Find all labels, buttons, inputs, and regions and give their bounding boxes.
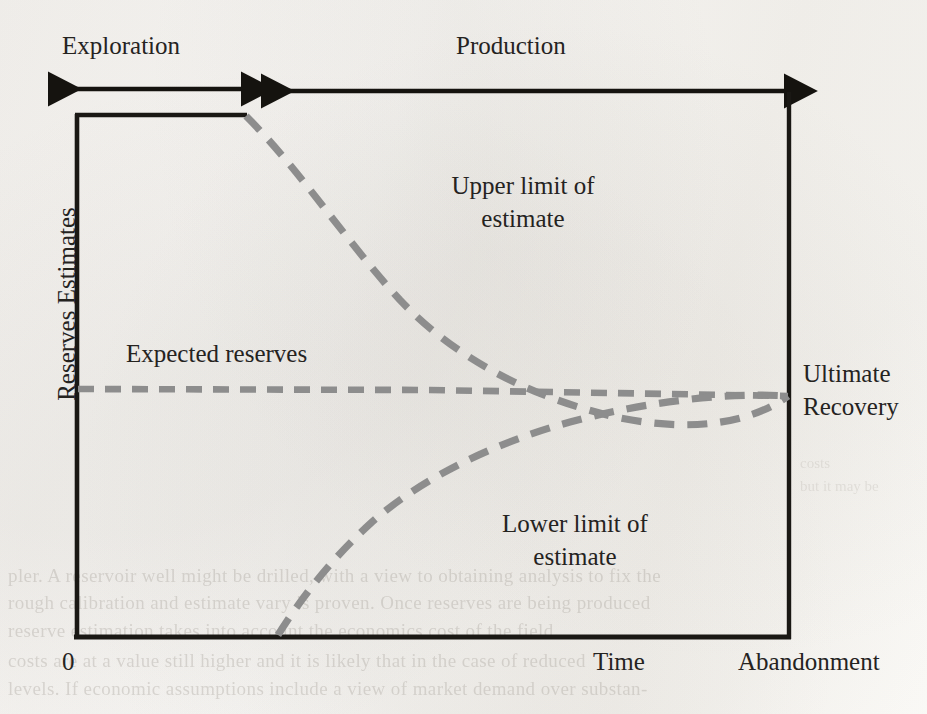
x-axis-origin-label: 0 — [62, 648, 75, 676]
expected-reserves-line — [78, 389, 788, 396]
annotation-upper-limit: Upper limit of estimate — [438, 170, 608, 235]
phase-label-production: Production — [456, 32, 566, 60]
annotation-lower-limit-line2: estimate — [490, 541, 660, 574]
annotation-ultimate-recovery-line2: Recovery — [803, 391, 925, 424]
annotation-upper-limit-line1: Upper limit of — [438, 170, 608, 203]
phase-label-exploration: Exploration — [62, 32, 180, 60]
annotation-ultimate-recovery: Ultimate Recovery — [803, 358, 925, 423]
annotation-lower-limit: Lower limit of estimate — [490, 508, 660, 573]
figure-page: pler. A reservoir well might be drilled,… — [0, 0, 927, 714]
x-axis-end-label: Abandonment — [738, 648, 880, 676]
annotation-expected-reserves: Expected reserves — [126, 340, 307, 368]
annotation-ultimate-recovery-line1: Ultimate — [803, 358, 925, 391]
annotation-lower-limit-line1: Lower limit of — [490, 508, 660, 541]
annotation-upper-limit-line2: estimate — [438, 203, 608, 236]
x-axis-label: Time — [593, 648, 645, 676]
y-axis-label: Reserves Estimates — [53, 199, 81, 409]
upper-limit-curve — [246, 116, 788, 425]
